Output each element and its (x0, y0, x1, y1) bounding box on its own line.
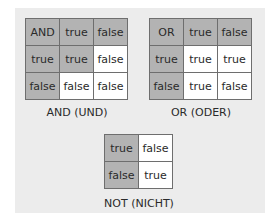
not-cell: true (139, 162, 173, 189)
and-caption: AND (UND) (25, 106, 129, 119)
and-cell: true (60, 19, 94, 46)
not-truth-table: true false false true (104, 134, 173, 189)
and-cell: true (60, 46, 94, 73)
and-cell: false (94, 19, 128, 46)
or-cell: false (150, 73, 184, 100)
or-cell: true (184, 73, 218, 100)
and-cell: false (94, 73, 128, 100)
or-caption: OR (ODER) (149, 106, 253, 119)
or-cell: true (150, 46, 184, 73)
and-cell: AND (26, 19, 60, 46)
and-cell: true (26, 46, 60, 73)
or-cell: true (184, 19, 218, 46)
not-cell: true (105, 135, 139, 162)
or-cell: false (218, 19, 252, 46)
not-caption: NOT (NICHT) (94, 197, 184, 210)
not-cell: false (139, 135, 173, 162)
not-cell: false (105, 162, 139, 189)
and-cell: false (94, 46, 128, 73)
and-cell: false (26, 73, 60, 100)
and-truth-table: AND true false true true false false fal… (25, 18, 128, 100)
or-cell: true (218, 46, 252, 73)
and-cell: false (60, 73, 94, 100)
or-truth-table: OR true false true true true false true … (149, 18, 252, 100)
or-cell: true (184, 46, 218, 73)
or-cell: OR (150, 19, 184, 46)
or-cell: false (218, 73, 252, 100)
